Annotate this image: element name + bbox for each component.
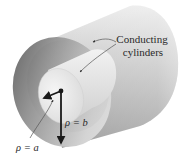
label-rho-b: ρ = b (64, 117, 88, 128)
callout-cylinders: cylinders (123, 46, 163, 58)
coaxial-cylinders-diagram: Conducting cylinders ρ = b ρ = a (0, 0, 187, 162)
callout-conducting: Conducting (116, 33, 168, 45)
label-rho-a: ρ = a (15, 142, 39, 153)
